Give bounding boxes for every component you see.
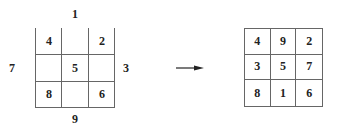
outer-label-bottom: 9 <box>65 112 85 126</box>
cell: 6 <box>296 80 322 106</box>
cell: 6 <box>89 81 115 107</box>
cell: 9 <box>271 29 297 55</box>
cell: 8 <box>245 80 271 106</box>
grid-line <box>35 107 115 108</box>
cell <box>89 55 115 81</box>
outer-label-right: 3 <box>116 61 136 75</box>
cell: 5 <box>62 55 88 81</box>
cell: 3 <box>245 55 271 81</box>
right-magic-square: 4 9 2 3 5 7 8 1 6 <box>244 28 323 107</box>
cell: 2 <box>296 29 322 55</box>
cell <box>62 28 88 54</box>
cell <box>62 81 88 107</box>
outer-label-left: 7 <box>2 61 22 75</box>
outer-label-top: 1 <box>65 7 85 21</box>
cell: 4 <box>36 28 62 54</box>
cell: 5 <box>271 55 297 81</box>
cell: 2 <box>89 28 115 54</box>
cell: 8 <box>36 81 62 107</box>
cell: 4 <box>245 29 271 55</box>
cell: 1 <box>271 80 297 106</box>
cell: 7 <box>296 55 322 81</box>
cell <box>36 55 62 81</box>
right-arrow-icon <box>176 65 204 71</box>
